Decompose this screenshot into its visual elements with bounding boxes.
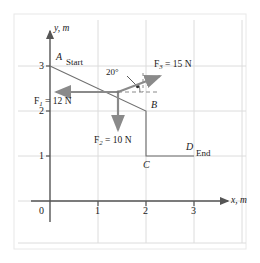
force-vector-F3 — [118, 76, 160, 92]
point-label-C: C — [143, 160, 150, 170]
angle-label-20deg: 20° — [106, 68, 119, 77]
y-axis-label: y, m — [54, 24, 69, 34]
x-tick-2: 2 — [143, 206, 148, 216]
point-note-start: Start — [66, 58, 83, 67]
x-axis-label: x, m — [231, 196, 247, 206]
x-tick-1: 1 — [95, 206, 100, 216]
force-label-F3: F3 = 15 N — [154, 60, 192, 71]
force-label-F1: F1 = 12 N — [34, 97, 72, 108]
point-label-B: B — [151, 100, 157, 110]
axis-origin-label: 0 — [39, 206, 44, 216]
grid-vertical — [98, 20, 242, 243]
point-label-D: D — [186, 142, 193, 152]
point-note-end: End — [196, 149, 211, 158]
figure-frame — [14, 14, 246, 249]
force-application-point — [117, 91, 120, 94]
force-value-F2: = 10 N — [103, 135, 132, 145]
x-tick-3: 3 — [191, 206, 196, 216]
physics-force-diagram: y, m x, m 0 3 2 1 1 2 3 A Start B C D En… — [0, 0, 260, 263]
y-tick-3: 3 — [39, 61, 44, 71]
force-label-F2: F2 = 10 N — [94, 136, 132, 147]
y-tick-1: 1 — [39, 151, 44, 161]
grid-horizontal — [18, 66, 246, 243]
force-value-F3: = 15 N — [163, 59, 192, 69]
force-value-F1: = 12 N — [43, 96, 72, 106]
point-label-A: A — [56, 52, 62, 62]
diagram-canvas — [0, 0, 260, 263]
